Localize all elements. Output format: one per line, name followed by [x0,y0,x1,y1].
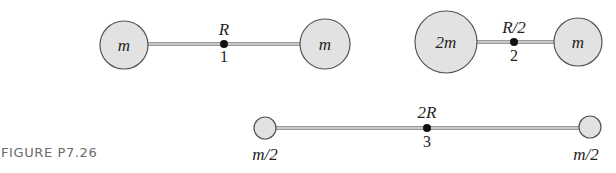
system-3-number: 3 [423,133,431,150]
system-3: m/2 m/2 2R 3 [252,103,601,164]
rod-2-length-label: R/2 [501,18,526,37]
system-2-number: 2 [510,47,518,64]
rod-1-length-label: R [218,20,230,39]
system-2: 2m m R/2 2 [415,11,602,73]
system-1: m m R 1 [100,19,350,69]
pivot-2 [510,38,518,46]
mass-3-left [254,117,276,139]
mass-2-right-label: m [572,33,584,52]
mass-3-right-label: m/2 [573,145,599,164]
mass-3-right [579,116,601,138]
system-1-number: 1 [220,48,228,65]
pivot-1 [220,40,228,48]
mass-2-left-label: 2m [436,33,457,52]
mass-1-left-label: m [118,36,130,55]
rod-3-length-label: 2R [418,103,438,122]
mass-3-left-label: m/2 [252,145,278,164]
figure-caption: FIGURE P7.26 [1,145,97,160]
pivot-3 [423,124,431,132]
mass-1-right-label: m [319,35,331,54]
